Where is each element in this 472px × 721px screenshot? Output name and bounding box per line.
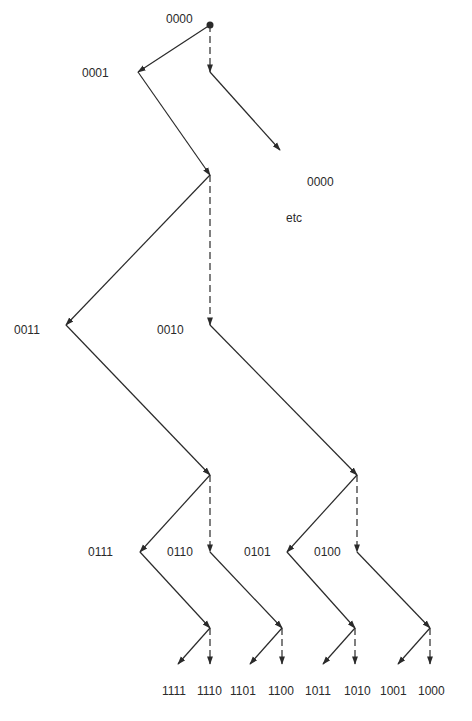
solid-arrow-15 [357,552,430,628]
node-label-n0010: 0010 [157,323,184,337]
node-label-n0101: 0101 [244,545,271,559]
node-label-n0110: 0110 [167,545,193,559]
solid-arrow-2 [138,72,210,175]
leaf-label-1110: 1110 [197,684,222,698]
solid-arrow-16 [178,628,210,664]
node-labels: 000000010000etc001100100111011001010100 [14,12,341,559]
solid-arrow-22 [398,628,430,664]
leaf-label-1001: 1001 [380,684,407,698]
leaf-label-1010: 1010 [344,684,371,698]
leaf-labels: 11111110110111001011101010011000 [162,684,445,698]
leaf-label-1000: 1000 [418,684,445,698]
solid-arrow-13 [210,552,282,628]
solid-arrow-14 [287,552,355,628]
node-label-etc: etc [286,211,302,225]
solid-arrow-3 [210,72,280,150]
solid-arrow-4 [66,175,210,325]
solid-arrow-12 [140,552,210,628]
leaf-label-1111: 1111 [162,684,186,698]
solid-arrow-20 [323,628,355,664]
tree-edges [66,25,430,664]
sequence-tree-diagram: 000000010000etc001100100111011001010100 … [0,0,472,721]
root-node-dot [207,22,214,29]
leaf-label-1011: 1011 [305,684,331,698]
solid-arrow-18 [250,628,282,664]
solid-arrow-8 [140,475,210,552]
node-label-root: 0000 [166,12,193,26]
solid-arrow-7 [210,325,357,475]
node-label-n0000b: 0000 [307,175,334,189]
node-label-n0011: 0011 [14,323,40,337]
solid-arrow-10 [287,475,357,552]
leaf-label-1101: 1101 [230,684,256,698]
node-label-n0111: 0111 [88,545,113,559]
node-label-n0100: 0100 [314,545,341,559]
node-label-n0001: 0001 [82,66,109,80]
solid-arrow-0 [138,25,210,72]
leaf-label-1100: 1100 [268,684,294,698]
solid-arrow-6 [66,325,210,475]
